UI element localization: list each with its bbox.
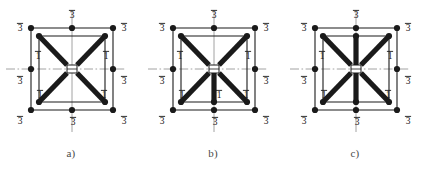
panel-a: 333333331111a) <box>0 0 142 173</box>
node-inner-top-left <box>178 33 184 39</box>
label-bottom-mid: 3 <box>354 117 360 127</box>
label-top-left: 3 <box>301 23 307 33</box>
label-mid-left: 3 <box>17 76 23 86</box>
label-lower-right-one: 1 <box>101 90 107 100</box>
diagonal-bottom-left <box>39 73 67 102</box>
label-lower-right-one-text: 1 <box>102 90 107 100</box>
node-top-left <box>28 25 34 31</box>
node-bottom-left <box>312 107 318 113</box>
label-upper-right-one: 1 <box>103 51 109 61</box>
label-lower-left-one: 1 <box>37 90 43 100</box>
label-top-mid: 3 <box>69 10 75 20</box>
node-mid-left <box>170 66 176 72</box>
label-top-right: 3 <box>405 23 411 33</box>
label-upper-left-one-text: 1 <box>178 51 183 61</box>
label-upper-left-one: 1 <box>177 51 183 61</box>
node-top-left <box>170 25 176 31</box>
label-bottom-right-text: 3 <box>406 116 411 126</box>
label-top-mid-text: 3 <box>70 10 75 20</box>
label-lower-left-one: 1 <box>179 90 185 100</box>
label-upper-left-one-text: 1 <box>320 51 325 61</box>
label-top-right-text: 3 <box>264 23 269 33</box>
label-top-left: 3 <box>159 23 165 33</box>
node-bottom-mid <box>353 107 359 113</box>
node-top-left <box>312 25 318 31</box>
node-mid-right <box>394 66 400 72</box>
node-inner-top-left <box>320 33 326 39</box>
node-top-right <box>394 25 400 31</box>
label-bottom-right: 3 <box>405 116 411 126</box>
node-inner-top-right <box>386 33 392 39</box>
label-mid-right: 3 <box>121 76 127 86</box>
label-bottom-right: 3 <box>121 116 127 126</box>
panel-c: 333333331111c) <box>284 0 426 173</box>
diagonal-top-right <box>219 36 247 65</box>
label-mid-left-text: 3 <box>302 76 307 86</box>
node-top-mid <box>353 25 359 31</box>
label-upper-right-one-text: 1 <box>388 51 393 61</box>
label-bottom-mid-text: 3 <box>355 117 360 127</box>
diagonal-top-right <box>77 36 105 65</box>
node-mid-right <box>110 66 116 72</box>
panel-b-drawing: 3333333311111 <box>142 0 284 147</box>
label-bottom-left: 3 <box>17 116 23 126</box>
label-bottom-mid: 3 <box>70 117 76 127</box>
label-lower-left-one-text: 1 <box>322 90 327 100</box>
node-bottom-mid <box>69 107 75 113</box>
node-mid-right <box>252 66 258 72</box>
node-top-right <box>252 25 258 31</box>
label-lower-center-one-text: 1 <box>217 90 222 100</box>
label-lower-right-one: 1 <box>243 90 249 100</box>
label-mid-right: 3 <box>405 76 411 86</box>
label-top-mid: 3 <box>211 10 217 20</box>
label-top-right-text: 3 <box>406 23 411 33</box>
label-mid-left: 3 <box>159 76 165 86</box>
label-bottom-right: 3 <box>263 116 269 126</box>
label-top-mid: 3 <box>353 10 359 20</box>
panel-b-caption: b) <box>142 147 284 159</box>
node-inner-top-left <box>36 33 42 39</box>
node-mid-left <box>312 66 318 72</box>
label-bottom-mid: 3 <box>212 117 218 127</box>
node-inner-top-right <box>102 33 108 39</box>
diagonal-bottom-left <box>181 73 209 102</box>
label-top-left-text: 3 <box>160 23 165 33</box>
label-bottom-mid-text: 3 <box>213 117 218 127</box>
label-upper-right-one: 1 <box>245 51 251 61</box>
label-top-mid-text: 3 <box>354 10 359 20</box>
label-top-right: 3 <box>121 23 127 33</box>
node-bottom-left <box>170 107 176 113</box>
panel-a-caption: a) <box>0 147 142 159</box>
label-lower-left-one-text: 1 <box>180 90 185 100</box>
node-bottom-mid <box>211 107 217 113</box>
label-bottom-mid-text: 3 <box>71 117 76 127</box>
label-lower-left-one: 1 <box>321 90 327 100</box>
label-bottom-left: 3 <box>159 116 165 126</box>
label-lower-right-one: 1 <box>385 90 391 100</box>
label-mid-right-text: 3 <box>406 76 411 86</box>
node-inner-top-mid <box>353 33 359 39</box>
node-bottom-right <box>394 107 400 113</box>
panel-c-drawing: 333333331111 <box>284 0 426 147</box>
label-top-right-text: 3 <box>122 23 127 33</box>
label-top-right: 3 <box>263 23 269 33</box>
label-mid-right-text: 3 <box>264 76 269 86</box>
node-inner-bottom-mid <box>353 99 359 105</box>
diagonal-top-left <box>39 36 67 65</box>
node-top-mid <box>211 25 217 31</box>
label-mid-left-text: 3 <box>18 76 23 86</box>
panel-c-caption: c) <box>284 147 426 159</box>
label-bottom-left-text: 3 <box>18 116 23 126</box>
label-bottom-right-text: 3 <box>264 116 269 126</box>
label-upper-right-one-text: 1 <box>246 51 251 61</box>
diagonal-top-left <box>323 36 351 65</box>
node-top-mid <box>69 25 75 31</box>
label-upper-right-one-text: 1 <box>104 51 109 61</box>
label-top-left-text: 3 <box>302 23 307 33</box>
label-upper-left-one: 1 <box>35 51 41 61</box>
label-top-mid-text: 3 <box>212 10 217 20</box>
label-upper-left-one: 1 <box>319 51 325 61</box>
diagonal-top-left <box>181 36 209 65</box>
label-lower-center-one: 1 <box>216 90 222 100</box>
label-upper-right-one: 1 <box>387 51 393 61</box>
